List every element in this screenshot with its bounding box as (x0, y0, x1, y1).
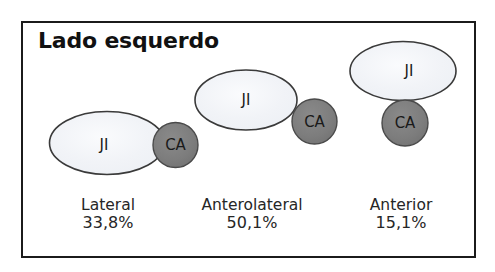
caption-anterolateral-value: 50,1% (182, 214, 322, 233)
group-anterior: JI CA (350, 42, 456, 147)
caption-lateral: Lateral 33,8% (48, 196, 168, 233)
figure-root: Lado esquerdo JI CA JI C (0, 0, 495, 272)
ca-label-anterolateral: CA (304, 113, 325, 131)
caption-lateral-name: Lateral (48, 196, 168, 214)
group-lateral: JI CA (50, 112, 199, 175)
ji-label-anterior: JI (404, 62, 414, 80)
caption-anterior: Anterior 15,1% (336, 196, 466, 233)
ca-label-anterior: CA (395, 114, 416, 132)
caption-anterolateral-name: Anterolateral (182, 196, 322, 214)
ji-ellipse-anterior (350, 42, 456, 101)
ji-label-lateral: JI (99, 136, 109, 154)
caption-anterior-name: Anterior (336, 196, 466, 214)
caption-anterolateral: Anterolateral 50,1% (182, 196, 322, 233)
ca-label-lateral: CA (165, 136, 186, 154)
caption-lateral-value: 33,8% (48, 214, 168, 233)
caption-anterior-value: 15,1% (336, 214, 466, 233)
ji-label-anterolateral: JI (241, 91, 251, 109)
group-anterolateral: JI CA (195, 70, 337, 144)
